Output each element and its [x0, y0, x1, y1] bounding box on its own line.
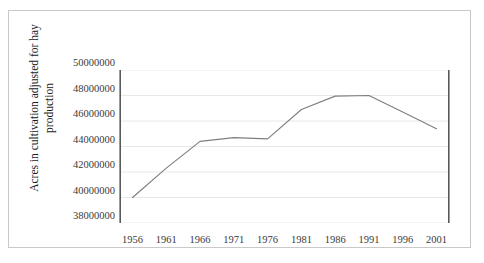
gridlines — [120, 70, 449, 223]
y-axis-tick-label: 46000000 — [57, 108, 115, 120]
y-axis-tick-label: 40000000 — [57, 185, 115, 197]
y-axis-tick-label: 42000000 — [57, 159, 115, 171]
figure-border: Acres in cultivation adjusted for hay pr… — [8, 10, 471, 248]
x-axis-tick-label: 2001 — [416, 233, 456, 246]
line-chart-svg — [119, 70, 450, 223]
y-axis-tick-label: 44000000 — [57, 134, 115, 146]
y-axis-tick-labels: 5000000048000000460000004400000042000000… — [57, 63, 115, 231]
y-axis-title: Acres in cultivation adjusted for hay pr… — [27, 8, 57, 208]
y-axis-tick-label: 50000000 — [57, 57, 115, 69]
plot-area — [119, 70, 450, 223]
x-axis-tick-labels: 1956196119661971197619811986199119962001 — [119, 233, 450, 249]
y-axis-tick-label: 38000000 — [57, 210, 115, 222]
chart-figure: Acres in cultivation adjusted for hay pr… — [0, 0, 484, 263]
y-axis-tick-label: 48000000 — [57, 83, 115, 95]
